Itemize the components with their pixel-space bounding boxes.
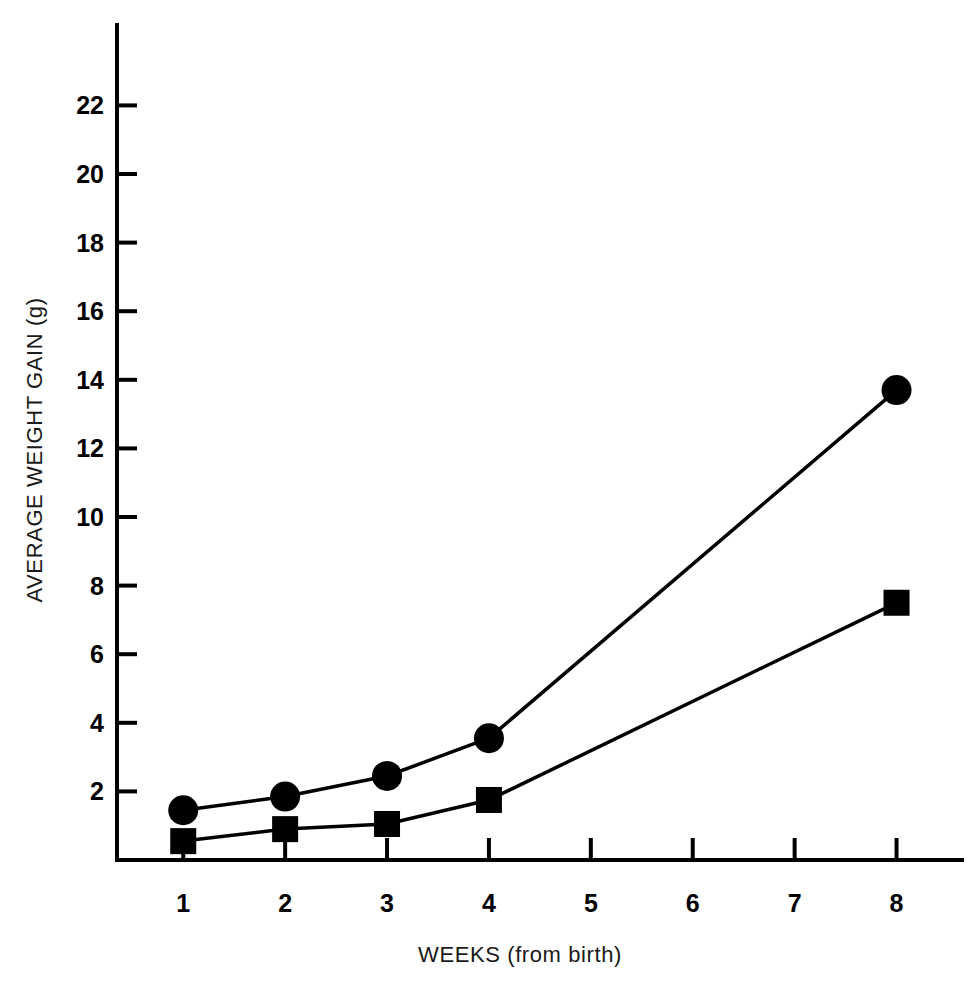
series-layer: [168, 375, 911, 854]
y-tick-label: 14: [76, 366, 104, 394]
y-tick-label: 22: [76, 91, 104, 119]
data-point-circle: [270, 782, 300, 812]
x-tick-label: 3: [380, 889, 394, 917]
data-point-circle: [474, 723, 504, 753]
x-axis-group: 12345678 WEEKS (from birth): [117, 838, 962, 967]
x-axis-title: WEEKS (from birth): [418, 942, 622, 967]
y-tick-marks: [117, 105, 137, 791]
x-tick-labels: 12345678: [176, 889, 903, 917]
series-square: [170, 590, 909, 854]
data-point-circle: [882, 375, 912, 405]
data-point-square: [272, 816, 298, 842]
data-point-circle: [168, 795, 198, 825]
y-tick-label: 10: [76, 503, 104, 531]
y-axis-group: 246810121416182022 AVERAGE WEIGHT GAIN (…: [22, 25, 137, 860]
y-tick-label: 20: [76, 160, 104, 188]
chart-page: 246810121416182022 AVERAGE WEIGHT GAIN (…: [0, 0, 977, 1000]
data-point-square: [476, 787, 502, 813]
line-chart: 246810121416182022 AVERAGE WEIGHT GAIN (…: [0, 0, 977, 1000]
y-tick-label: 12: [76, 434, 104, 462]
x-tick-label: 5: [584, 889, 598, 917]
x-tick-label: 6: [686, 889, 700, 917]
y-tick-label: 18: [76, 229, 104, 257]
x-tick-label: 1: [176, 889, 190, 917]
x-tick-label: 2: [278, 889, 292, 917]
x-tick-label: 7: [788, 889, 802, 917]
x-tick-label: 8: [890, 889, 904, 917]
data-point-square: [884, 590, 910, 616]
y-tick-label: 8: [90, 572, 104, 600]
y-tick-label: 16: [76, 297, 104, 325]
series-line: [183, 390, 896, 810]
y-tick-label: 2: [90, 777, 104, 805]
x-tick-label: 4: [482, 889, 496, 917]
y-tick-label: 6: [90, 640, 104, 668]
y-tick-label: 4: [90, 709, 104, 737]
y-axis-title: AVERAGE WEIGHT GAIN (g): [22, 297, 47, 602]
series-circle: [168, 375, 911, 825]
data-point-square: [170, 828, 196, 854]
data-point-square: [374, 811, 400, 837]
data-point-circle: [372, 761, 402, 791]
y-tick-labels: 246810121416182022: [76, 91, 104, 805]
